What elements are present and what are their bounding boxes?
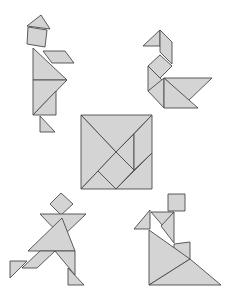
square-piece bbox=[27, 27, 47, 47]
square-piece bbox=[50, 193, 73, 215]
small-triangle-piece bbox=[143, 30, 160, 46]
parallelogram-piece bbox=[22, 251, 55, 268]
tangram-illustration bbox=[0, 0, 226, 300]
figure-standing-person bbox=[27, 15, 74, 132]
small-triangle-piece bbox=[27, 15, 50, 29]
medium-triangle-piece bbox=[55, 251, 75, 275]
small-triangle-piece bbox=[40, 116, 55, 132]
figure-swan bbox=[143, 30, 212, 108]
square-piece bbox=[168, 194, 185, 211]
small-triangle-piece bbox=[68, 268, 84, 285]
small-triangle-piece bbox=[10, 261, 27, 278]
figure-solved-square bbox=[81, 115, 152, 189]
figure-running-person bbox=[10, 193, 86, 285]
figure-dancer bbox=[134, 194, 221, 285]
small-triangle-piece bbox=[134, 210, 150, 229]
